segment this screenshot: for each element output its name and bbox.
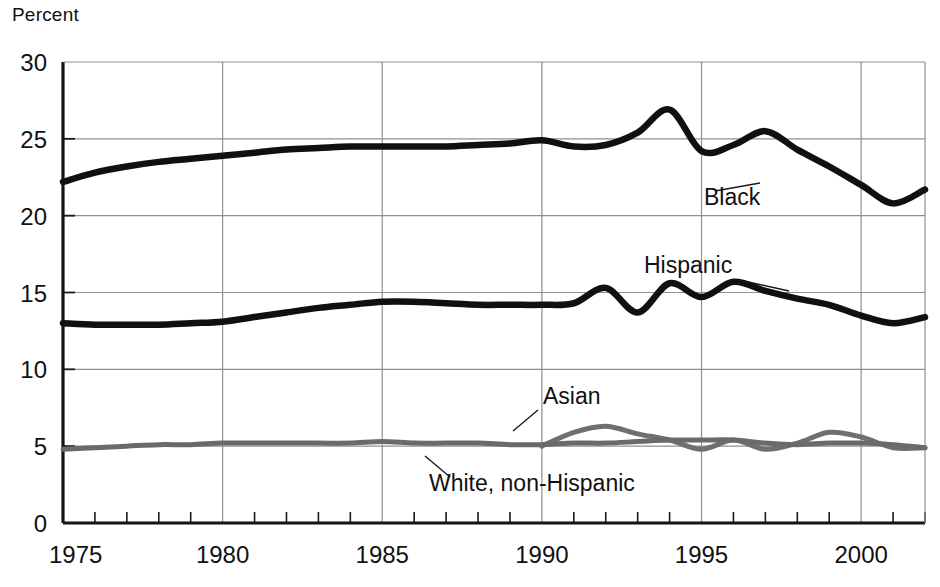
series-annotation-label: White, non-Hispanic bbox=[429, 470, 635, 496]
x-tick-label: 1980 bbox=[196, 541, 249, 568]
minor-tick-marks bbox=[63, 139, 925, 523]
y-axis-tick-labels: 051015202530 bbox=[20, 49, 47, 537]
y-axis-title: Percent bbox=[12, 4, 79, 26]
y-tick-label: 20 bbox=[20, 203, 47, 230]
series-lines-group bbox=[63, 109, 925, 449]
x-tick-label: 1975 bbox=[49, 541, 102, 568]
annotation-leader-lines bbox=[425, 183, 789, 477]
line-chart-plot: 051015202530 197519801985199019952000 Bl… bbox=[0, 0, 940, 587]
x-axis-tick-labels: 197519801985199019952000 bbox=[49, 541, 888, 568]
chart-container: Percent 051015202530 1975198019851990199… bbox=[0, 0, 940, 587]
x-tick-label: 1990 bbox=[515, 541, 568, 568]
y-tick-label: 0 bbox=[34, 510, 47, 537]
y-tick-label: 15 bbox=[20, 280, 47, 307]
series-annotation-label: Hispanic bbox=[644, 252, 732, 278]
y-tick-label: 25 bbox=[20, 126, 47, 153]
gridlines-group bbox=[63, 62, 925, 523]
annotation-leader-line bbox=[513, 410, 538, 431]
y-tick-label: 5 bbox=[34, 433, 47, 460]
series-line-black bbox=[63, 109, 925, 203]
series-annotation-label: Asian bbox=[543, 383, 601, 409]
x-tick-label: 1995 bbox=[675, 541, 728, 568]
y-tick-label: 30 bbox=[20, 49, 47, 76]
x-tick-label: 1985 bbox=[356, 541, 409, 568]
series-line-hispanic bbox=[63, 282, 925, 325]
y-tick-label: 10 bbox=[20, 356, 47, 383]
series-annotation-label: Black bbox=[704, 184, 761, 210]
x-tick-label: 2000 bbox=[834, 541, 887, 568]
